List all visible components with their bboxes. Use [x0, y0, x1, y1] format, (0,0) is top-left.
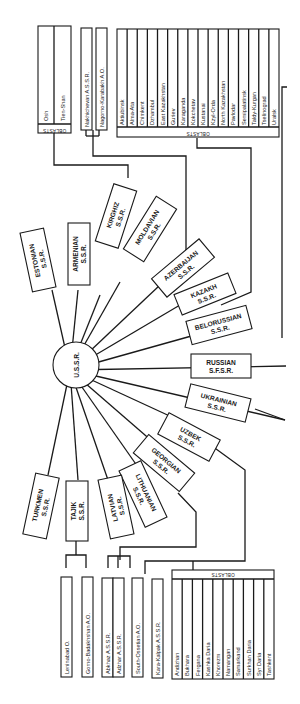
kazakh-oblast: Kokchetav [190, 99, 196, 125]
tajik-subdivisions: Leninabad O. Gorno-Badakhshan A.O. [61, 577, 93, 677]
uzbek-oblast: Khorezm [215, 653, 221, 676]
svg-text:South-Ossetian A.O.: South-Ossetian A.O. [135, 623, 141, 674]
ussr-administrative-diagram: U.S.S.R. ESTONIAN S.S.R. A [0, 0, 300, 704]
republic-estonian: ESTONIAN S.S.R. [20, 228, 56, 292]
kazakh-oblast: Alma-Ata [129, 101, 135, 125]
uzbek-oblast: Andizhan [174, 653, 180, 676]
republic-tajik: TAJIK S.S.R. [66, 481, 88, 541]
kazakh-oblast: Taldy-Kurgan [251, 92, 257, 125]
kazakh-oblast: North Kazakhstan [220, 81, 226, 125]
svg-text:Gorno-Badakhshan A.O.: Gorno-Badakhshan A.O. [85, 613, 91, 674]
kazakh-oblast: Aktiubinsk [119, 99, 125, 125]
uzbek-oblast: Kashka Daria [205, 642, 211, 676]
kazakh-oblast: Kustanai [200, 103, 206, 125]
kazakh-oblast: Karaganda [180, 97, 186, 125]
svg-text:Leninabad O.: Leninabad O. [64, 640, 70, 674]
uzbek-oblast: Surkhan Daria [246, 639, 252, 676]
svg-text:RUSSIAN: RUSSIAN [206, 359, 236, 366]
uzbek-oblast: Fergana [195, 654, 201, 676]
svg-text:OBLASTS: OBLASTS [186, 131, 209, 136]
svg-text:S.F.S.R.: S.F.S.R. [209, 367, 233, 374]
kazakh-oblast: East Kazakhstan [160, 83, 166, 125]
republic-russian: RUSSIAN S.F.S.R. [191, 354, 251, 378]
svg-text:Abkhaz A.S.S.R.: Abkhaz A.S.S.R. [105, 632, 111, 674]
azerbaijan-subdivisions: Nakhichevan A.S.S.R. Nagorno-Karabakh A.… [81, 28, 107, 130]
uzbek-oblast: Syr Daria [256, 652, 262, 676]
svg-text:Tien-Shan: Tien-Shan [60, 95, 66, 121]
svg-text:S.S.R.: S.S.R. [80, 244, 87, 263]
svg-text:Adzhar A.S.S.R.: Adzhar A.S.S.R. [116, 633, 122, 674]
svg-text:Nakhichevan A.S.S.R.: Nakhichevan A.S.S.R. [84, 72, 90, 127]
kazakh-oblast: Tselinograd [261, 96, 267, 125]
ussr-node: U.S.S.R. [53, 342, 99, 388]
svg-text:OBLASTS: OBLASTS [211, 572, 234, 577]
kirghiz-oblasts-table: OBLASTS Osh Tien-Shan [38, 26, 71, 133]
svg-text:OBLASTS: OBLASTS [43, 128, 66, 133]
uzbek-oblast: Bukhara [184, 654, 190, 676]
uzbek-oblast: Namangan [225, 649, 231, 676]
kazakh-oblast: Uralsk [271, 109, 277, 125]
republic-armenian: ARMENIAN S.S.R. [68, 223, 90, 285]
republic-belorussian: BELORUSSIAN S.S.R. [186, 305, 252, 344]
svg-text:Osh: Osh [43, 111, 49, 121]
kazakh-oblast: Semipalatinsk [241, 90, 247, 125]
kazakh-oblast: Kzyl-Orda [210, 99, 216, 125]
kazakh-oblast: Guriev [170, 108, 176, 125]
kazakh-oblast: Pavlodar [230, 103, 236, 125]
kazakh-oblast: Chimkent [139, 101, 145, 125]
svg-text:ARMENIAN: ARMENIAN [72, 236, 79, 272]
kazakh-oblast: Dzhambul [149, 100, 155, 125]
svg-text:Kara-Kalpak A.S.S.R.: Kara-Kalpak A.S.S.R. [155, 621, 161, 675]
uzbek-oblast: Samarkand [235, 647, 241, 676]
georgian-subdivisions: Abkhaz A.S.S.R. Adzhar A.S.S.R. South-Os… [102, 578, 143, 677]
republic-turkmen: TURKMEN S.S.R. [23, 473, 59, 539]
svg-text:Nagorno-Karabakh A.O.: Nagorno-Karabakh A.O. [99, 67, 105, 127]
svg-text:S.S.R.: S.S.R. [78, 501, 85, 520]
uzbek-oblast: Tashkent [266, 653, 272, 676]
republic-ukrainian: UKRAINIAN S.S.R. [185, 384, 251, 422]
svg-text:TAJIK: TAJIK [70, 501, 77, 520]
ussr-label: U.S.S.R. [73, 352, 80, 378]
